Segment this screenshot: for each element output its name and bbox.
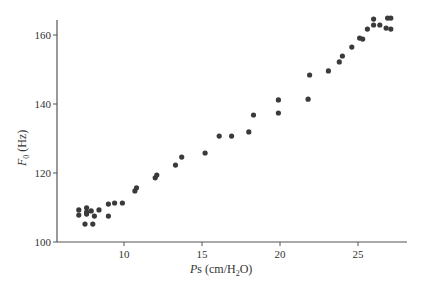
data-point — [217, 134, 222, 139]
data-point — [92, 214, 97, 219]
data-point — [112, 200, 117, 205]
data-point — [276, 97, 281, 102]
data-point — [179, 155, 184, 160]
data-point — [306, 97, 311, 102]
y-tick-label: 120 — [35, 167, 52, 179]
data-point — [120, 200, 125, 205]
data-point — [154, 173, 159, 178]
data-point — [307, 72, 312, 77]
x-axis-label: Ps (cm/H2O) — [189, 262, 252, 278]
data-point — [76, 207, 81, 212]
data-point — [349, 45, 354, 50]
y-tick-label: 160 — [35, 29, 52, 41]
data-point — [134, 185, 139, 190]
data-point — [96, 207, 101, 212]
data-point — [371, 17, 376, 22]
data-point — [106, 214, 111, 219]
scatter-chart: 100120140160 10152025 Ps (cm/H2O) F0 (Hz… — [0, 0, 425, 296]
data-point — [173, 163, 178, 168]
data-point — [90, 222, 95, 227]
data-point — [251, 112, 256, 117]
data-points — [76, 16, 393, 227]
data-point — [246, 129, 251, 134]
y-tick-label: 140 — [35, 98, 52, 110]
data-point — [337, 59, 342, 64]
data-point — [340, 53, 345, 58]
data-point — [377, 22, 382, 27]
data-point — [326, 68, 331, 73]
x-tick-label: 10 — [119, 248, 131, 260]
y-tick-label: 100 — [35, 236, 52, 248]
axes — [57, 20, 407, 242]
data-point — [276, 110, 281, 115]
data-point — [203, 150, 208, 155]
data-point — [229, 134, 234, 139]
x-tick-label: 20 — [275, 248, 287, 260]
x-tick-label: 15 — [197, 248, 209, 260]
data-point — [76, 213, 81, 218]
data-point — [365, 27, 370, 32]
data-point — [384, 26, 389, 31]
data-point — [84, 212, 89, 217]
y-axis-label: F0 (Hz) — [15, 130, 31, 167]
x-tick-label: 25 — [353, 248, 365, 260]
y-ticks: 100120140160 — [35, 29, 58, 248]
data-point — [388, 27, 393, 32]
data-point — [360, 37, 365, 42]
x-ticks: 10152025 — [119, 242, 365, 260]
data-point — [388, 16, 393, 21]
data-point — [371, 22, 376, 27]
data-point — [106, 202, 111, 207]
data-point — [89, 208, 94, 213]
data-point — [82, 222, 87, 227]
